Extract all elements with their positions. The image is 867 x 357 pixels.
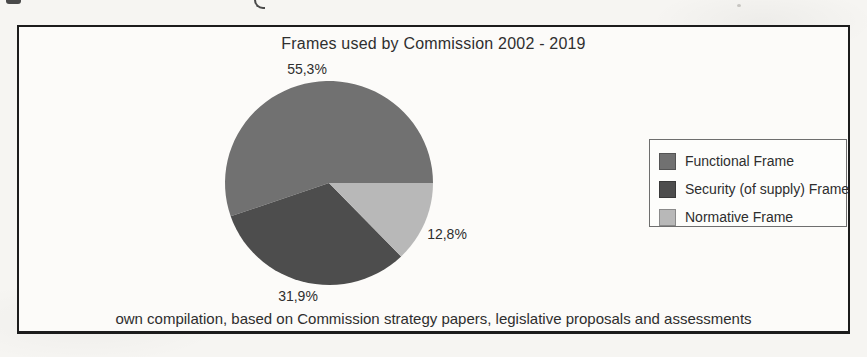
legend-label-functional: Functional Frame <box>685 153 794 169</box>
scan-noise-dot <box>737 4 741 7</box>
cropped-text-artifact <box>6 0 21 4</box>
cropped-text-descender-artifact <box>254 0 265 9</box>
chart-legend: Functional Frame Security (of supply) Fr… <box>649 139 847 227</box>
figure-frame: Frames used by Commission 2002 - 2019 55… <box>17 25 850 334</box>
legend-item-normative: Normative Frame <box>659 205 846 229</box>
chart-title: Frames used by Commission 2002 - 2019 <box>19 35 848 53</box>
legend-swatch-security <box>659 181 676 198</box>
pie-chart-area <box>225 81 433 285</box>
slice-value-label-security: 31,9% <box>278 288 318 304</box>
legend-item-security: Security (of supply) Frame <box>659 177 846 201</box>
legend-label-security: Security (of supply) Frame <box>685 181 849 197</box>
legend-swatch-functional <box>659 153 676 170</box>
legend-label-normative: Normative Frame <box>685 209 793 225</box>
legend-item-functional: Functional Frame <box>659 149 846 173</box>
pie-chart <box>225 81 433 285</box>
scanned-page: Frames used by Commission 2002 - 2019 55… <box>0 0 867 357</box>
legend-swatch-normative <box>659 209 676 226</box>
slice-value-label-functional: 55,3% <box>287 61 327 77</box>
chart-source-caption: own compilation, based on Commission str… <box>19 310 848 327</box>
slice-value-label-normative: 12,8% <box>427 226 467 242</box>
